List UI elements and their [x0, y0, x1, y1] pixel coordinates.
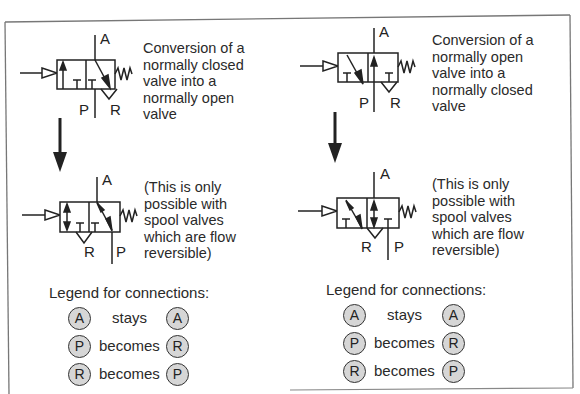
- right-top-port-r: R: [390, 94, 401, 111]
- port-circle: A: [343, 304, 366, 327]
- left-legend-title: Legend for connections:: [49, 284, 209, 301]
- legend-verb: stays: [112, 309, 147, 326]
- right-bottom-port-r: R: [361, 238, 372, 255]
- right-down-arrow: [328, 112, 342, 163]
- right-legend-title: Legend for connections:: [326, 281, 486, 298]
- port-circle: A: [166, 307, 189, 330]
- legend-verb: becomes: [374, 362, 435, 379]
- port-circle: P: [442, 360, 465, 383]
- port-circle: P: [343, 332, 366, 355]
- right-bottom-port-p: P: [394, 238, 404, 255]
- right-top-port-a: A: [379, 23, 389, 40]
- port-circle: R: [68, 363, 91, 386]
- left-bottom-port-r: R: [84, 243, 95, 260]
- right-top-description: Conversion of a normally open valve into…: [432, 32, 534, 115]
- legend-verb: becomes: [99, 337, 160, 354]
- left-down-arrow: [53, 118, 67, 172]
- left-top-port-p: P: [79, 101, 89, 118]
- right-bottom-note: (This is only possible with spool valves…: [432, 176, 524, 259]
- right-bottom-port-a: A: [380, 165, 390, 182]
- port-circle: P: [166, 363, 189, 386]
- port-circle: R: [166, 335, 189, 358]
- left-top-description: Conversion of a normally closed valve in…: [143, 40, 245, 123]
- port-circle: R: [442, 332, 465, 355]
- left-bottom-port-a: A: [102, 171, 112, 188]
- legend-verb: stays: [387, 306, 422, 323]
- port-circle: A: [442, 304, 465, 327]
- port-circle: R: [343, 360, 366, 383]
- port-circle: P: [68, 335, 91, 358]
- legend-verb: becomes: [99, 365, 160, 382]
- port-circle: A: [68, 307, 91, 330]
- left-top-port-a: A: [100, 30, 110, 47]
- left-bottom-note: (This is only possible with spool valves…: [144, 179, 236, 262]
- left-bottom-port-p: P: [116, 243, 126, 260]
- left-top-port-r: R: [110, 101, 121, 118]
- right-top-port-p: P: [359, 94, 369, 111]
- legend-verb: becomes: [374, 334, 435, 351]
